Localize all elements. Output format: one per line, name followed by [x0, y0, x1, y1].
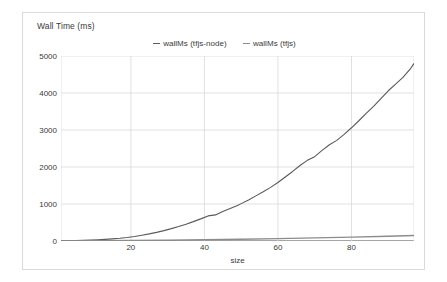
y-tick-label: 4000 [39, 89, 57, 98]
legend-label: wallMs (tfjs) [253, 39, 296, 48]
y-tick-label: 3000 [39, 126, 57, 135]
x-tick-label: 80 [347, 243, 356, 252]
y-axis-tick-labels: 500040003000200010000 [23, 56, 57, 241]
y-tick-label: 5000 [39, 52, 57, 61]
chart-legend: wallMs (tfjs-node) wallMs (tfjs) [23, 39, 426, 48]
x-tick-label: 40 [200, 243, 209, 252]
plot-area [61, 56, 414, 241]
legend-swatch-icon [153, 43, 160, 44]
grid-lines [61, 56, 414, 241]
x-tick-label: 20 [126, 243, 135, 252]
series-line-wallms-tfjs- [61, 235, 414, 240]
legend-swatch-icon [243, 43, 250, 44]
series-lines [61, 63, 414, 240]
chart-canvas [61, 56, 414, 241]
y-tick-label: 2000 [39, 163, 57, 172]
y-tick-label: 1000 [39, 200, 57, 209]
x-axis-title: size [61, 256, 414, 265]
x-tick-label: 60 [273, 243, 282, 252]
y-tick-label: 0 [53, 237, 57, 246]
series-line-wallms-tfjs-node- [61, 63, 414, 240]
legend-item-wallms-tfjs[interactable]: wallMs (tfjs) [243, 39, 296, 48]
chart-figure: Wall Time (ms) wallMs (tfjs-node) wallMs… [22, 12, 425, 270]
legend-item-wallms-tfjs-node[interactable]: wallMs (tfjs-node) [153, 39, 227, 48]
y-axis-title: Wall Time (ms) [37, 21, 95, 31]
x-axis-tick-labels: 20406080 [61, 243, 414, 257]
legend-label: wallMs (tfjs-node) [163, 39, 227, 48]
